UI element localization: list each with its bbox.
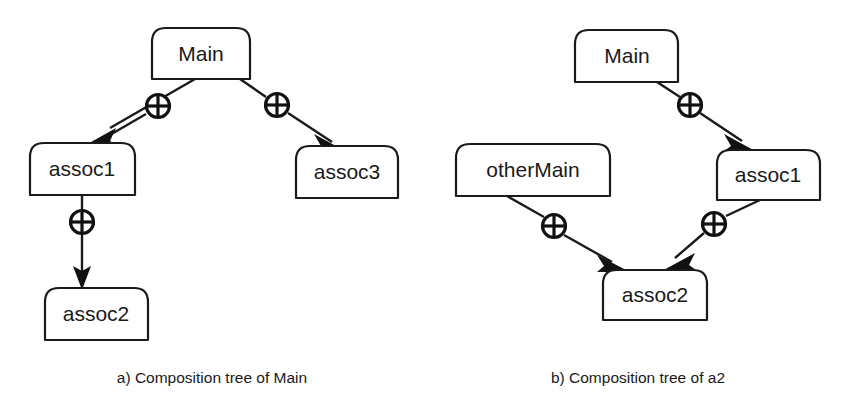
node-label: assoc1 [49,157,116,180]
edge-main-to-assoc3 [240,79,347,152]
node-main[interactable]: Main [152,28,250,79]
panel-b: Main otherMain assoc1 assoc2 b) Composit… [456,30,820,386]
edge-main-to-assoc1 [657,82,757,152]
node-assoc1[interactable]: assoc1 [30,143,135,195]
edge-line [700,113,742,141]
node-otherMain[interactable]: otherMain [456,144,610,196]
composition-plus-icon [147,95,170,118]
edge-assoc1-to-assoc2 [71,195,94,290]
composition-plus-icon [266,94,289,117]
composition-plus-icon [543,215,566,238]
edge-line [657,82,680,97]
edge-line [240,79,266,97]
composition-plus-icon [71,211,94,234]
composition-plus-icon [679,94,702,117]
node-label: Main [604,44,650,67]
edge-line [288,113,332,142]
composition-plus-icon [703,213,726,236]
node-label: assoc1 [735,163,802,186]
node-assoc3[interactable]: assoc3 [296,146,398,198]
edge-line [507,196,544,217]
node-assoc2[interactable]: assoc2 [45,288,148,340]
diagram-canvas: Main assoc1 assoc3 assoc2 a) Composition… [0,0,847,416]
node-main[interactable]: Main [575,30,678,82]
edge-assoc1-to-assoc2 [660,200,760,272]
node-label: assoc3 [314,160,381,183]
composition-tree-figure: Main assoc1 assoc3 assoc2 a) Composition… [0,0,847,416]
node-label: Main [178,42,224,65]
panel-a: Main assoc1 assoc3 assoc2 a) Composition… [30,28,398,386]
node-assoc2[interactable]: assoc2 [603,270,707,320]
edge-line [564,235,612,262]
node-label: otherMain [486,158,579,181]
panel-b-caption: b) Composition tree of a2 [551,369,725,386]
edge-main-to-assoc1 [84,79,195,146]
panel-a-caption: a) Composition tree of Main [117,369,307,386]
edge-line [675,233,704,258]
node-label: assoc2 [622,283,689,306]
node-assoc1[interactable]: assoc1 [717,150,820,200]
node-label: assoc2 [63,302,130,325]
edge-otherMain-to-assoc2 [507,196,630,272]
edge-line [726,200,760,216]
